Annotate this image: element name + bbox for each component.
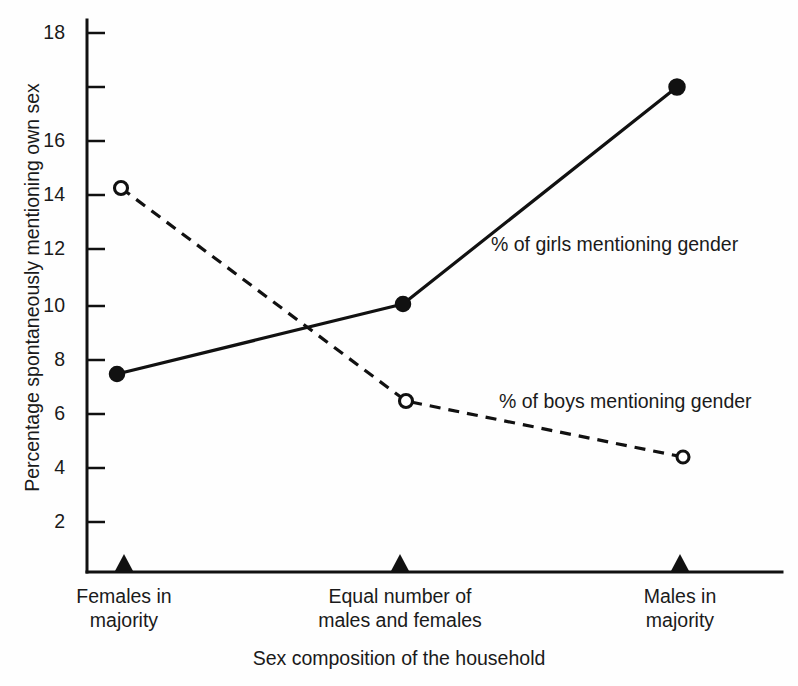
x-category-label-males: Males in majority — [550, 585, 798, 633]
series-annotation-boys: % of boys mentioning gender — [499, 390, 752, 413]
plot-area — [0, 0, 798, 686]
y-axis-title: Percentage spontaneously mentioning own … — [21, 53, 44, 523]
series-annotation-girls: % of girls mentioning gender — [491, 233, 738, 256]
series-markers-girls — [110, 79, 686, 382]
x-tick-triangle-equal — [391, 554, 409, 571]
x-category-label-equal-line1: Equal number of — [270, 585, 530, 609]
x-tick-triangle-females — [115, 554, 133, 571]
series-line-boys — [121, 188, 683, 457]
x-category-label-females-line2: majority — [0, 609, 254, 633]
x-category-label-females-line1: Females in — [0, 585, 254, 609]
x-category-label-males-line2: majority — [550, 609, 798, 633]
chart-figure: 2 4 6 8 10 12 14 16 18 Percentage sponta… — [0, 0, 798, 686]
y-axis-ticks — [87, 33, 105, 522]
y-tick-label-18: 18 — [20, 23, 65, 43]
x-category-label-females: Females in majority — [0, 585, 254, 633]
series-markers-boys — [115, 182, 690, 464]
x-tick-triangle-males — [671, 554, 689, 571]
x-category-label-males-line1: Males in — [550, 585, 798, 609]
x-category-label-equal-line2: males and females — [270, 609, 530, 633]
series-line-girls — [117, 87, 677, 374]
x-axis-title: Sex composition of the household — [0, 647, 798, 670]
x-axis-ticks — [115, 554, 689, 571]
x-category-label-equal: Equal number of males and females — [270, 585, 530, 633]
